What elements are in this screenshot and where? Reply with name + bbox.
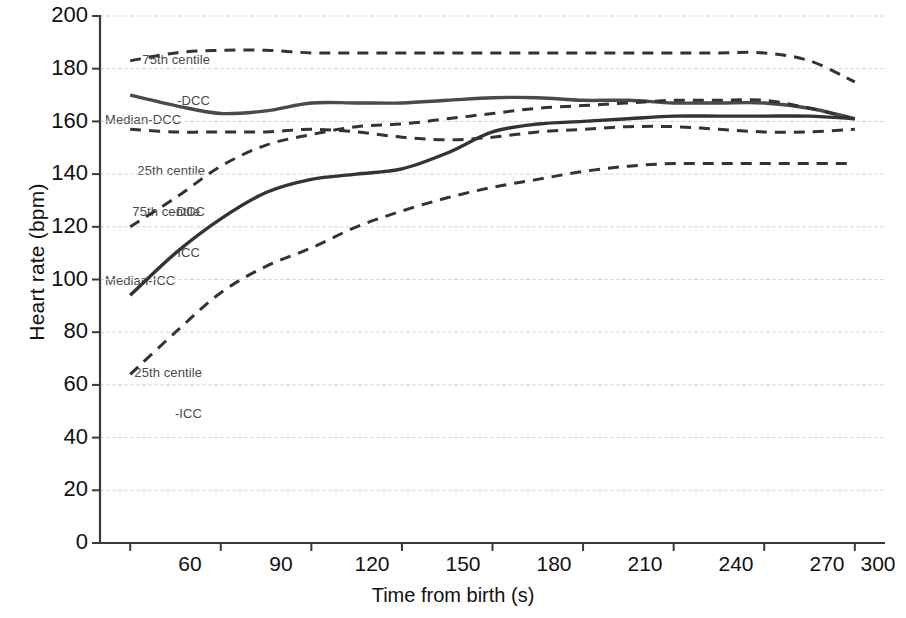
gridlines	[100, 16, 885, 490]
chart-figure: Heart rate (bpm) 200 180 160 140 120 100…	[0, 0, 906, 618]
series-line-5	[130, 163, 855, 374]
series-line-4	[130, 116, 855, 295]
plot-canvas	[0, 0, 906, 618]
axes	[92, 15, 885, 551]
series-group	[130, 50, 855, 374]
series-line-0	[130, 50, 855, 82]
